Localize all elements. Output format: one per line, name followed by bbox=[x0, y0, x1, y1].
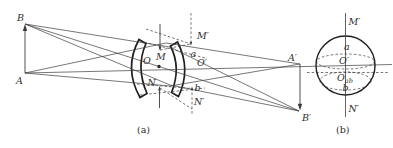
pupil-label-a: a bbox=[344, 41, 350, 52]
optics-figure: B A O M N a O′ b M′ N′ A′ B′ (a) M′ a O′… bbox=[0, 0, 393, 148]
pupil-bottom-arrowhead bbox=[191, 87, 193, 91]
label-b: b bbox=[195, 82, 201, 93]
label-N-prime: N′ bbox=[193, 96, 205, 107]
pupil-label-N-prime: N′ bbox=[348, 103, 360, 114]
object-arrowhead-B bbox=[23, 24, 27, 31]
pupil-label-O-prime: O′ bbox=[339, 55, 350, 66]
lens-1 bbox=[131, 40, 147, 98]
label-M: M bbox=[155, 51, 166, 62]
image-arrowhead-Bp bbox=[298, 104, 302, 111]
label-A-prime: A′ bbox=[287, 52, 298, 63]
label-O-prime: O′ bbox=[197, 57, 208, 68]
label-a: a bbox=[191, 48, 197, 59]
lens-ray-diagram: B A O M N a O′ b M′ N′ A′ B′ (a) M′ a O′… bbox=[0, 0, 393, 148]
caption-a: (a) bbox=[137, 124, 150, 135]
label-B-prime: B′ bbox=[301, 112, 312, 123]
pupil-label-b: b bbox=[343, 82, 349, 93]
caption-b: (b) bbox=[336, 124, 350, 135]
label-A: A bbox=[15, 75, 23, 86]
pupil-label-M-prime: M′ bbox=[348, 16, 362, 27]
label-B: B bbox=[16, 12, 24, 23]
pupil-construction-top-1 bbox=[146, 29, 191, 44]
label-N: N bbox=[147, 77, 157, 88]
label-M-prime: M′ bbox=[196, 30, 210, 41]
label-O: O bbox=[143, 55, 151, 66]
